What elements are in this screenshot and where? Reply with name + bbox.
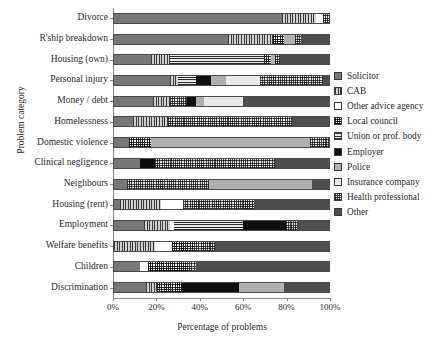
bar-segment-cab xyxy=(144,221,170,230)
legend-swatch-police xyxy=(334,163,342,171)
bar-segment-other xyxy=(292,117,329,126)
bar-segment-cab xyxy=(133,117,167,126)
bar-segment-solicitor xyxy=(114,117,133,126)
category-label: Housing (own) xyxy=(51,54,108,64)
bar-segment-localcouncil xyxy=(157,283,181,292)
bar-segment-health xyxy=(170,97,187,106)
bar-segment-health xyxy=(183,200,245,209)
bar-segment-solicitor xyxy=(114,14,282,23)
stacked-bar xyxy=(113,282,330,293)
legend-item: Health professional xyxy=(334,190,444,205)
legend-label: Solicitor xyxy=(347,71,379,81)
category-label: R'ship breakdown xyxy=(40,33,108,43)
x-axis-tick xyxy=(287,298,288,301)
bar-segment-health xyxy=(310,138,329,147)
bar-segment-police xyxy=(209,180,312,189)
legend-swatch-other xyxy=(334,208,342,216)
legend-label: Local council xyxy=(347,116,398,126)
legend: SolicitorCABOther advice agencyLocal cou… xyxy=(334,68,444,220)
legend-item: Other advice agency xyxy=(334,98,444,113)
category-label: Housing (rent) xyxy=(52,199,108,209)
bar-segment-localcouncil xyxy=(245,200,254,209)
bar-segment-solicitor xyxy=(114,97,153,106)
bar-segment-cab xyxy=(282,14,316,23)
bar-segment-cab xyxy=(146,283,157,292)
bar-segment-cab xyxy=(120,200,161,209)
legend-swatch-localcouncil xyxy=(334,117,342,125)
bar-segment-other xyxy=(215,242,329,251)
x-axis-tick xyxy=(156,298,157,301)
legend-label: Insurance company xyxy=(347,177,420,187)
stacked-bar xyxy=(113,54,330,65)
bar-segment-cab xyxy=(153,97,170,106)
bar-row: Money / debt xyxy=(113,91,330,112)
legend-item: Insurance company xyxy=(334,174,444,189)
bar-segment-health xyxy=(168,117,293,126)
category-label: Welfare benefits xyxy=(46,240,108,250)
bar-row: Housing (own) xyxy=(113,49,330,70)
stacked-bar xyxy=(113,179,330,190)
x-axis-tick xyxy=(243,298,244,301)
bar-segment-employer xyxy=(140,159,155,168)
stacked-bar xyxy=(113,220,330,231)
bar-row: Children xyxy=(113,257,330,278)
bar-segment-other xyxy=(275,159,329,168)
bar-row: R'ship breakdown xyxy=(113,29,330,50)
plot-area: DivorceR'ship breakdownHousing (own)Pers… xyxy=(113,8,330,298)
bar-segment-police xyxy=(239,283,284,292)
x-axis-ticks: 0%20%40%60%80%100% xyxy=(113,298,331,316)
bar-row: Domestic violence xyxy=(113,132,330,153)
bar-segment-union xyxy=(170,55,265,64)
category-label: Money / debt xyxy=(57,95,108,105)
bar-segment-other xyxy=(243,97,329,106)
stacked-bar xyxy=(113,75,330,86)
bar-segment-solicitor xyxy=(114,180,127,189)
stacked-bar-chart: Problem category DivorceR'ship breakdown… xyxy=(0,0,444,346)
legend-label: Other advice agency xyxy=(347,101,423,111)
bar-segment-solicitor xyxy=(114,76,170,85)
stacked-bar xyxy=(113,158,330,169)
bar-segment-employer xyxy=(181,283,239,292)
bar-segment-health xyxy=(323,14,329,23)
bar-segment-health xyxy=(187,262,196,271)
legend-label: Health professional xyxy=(347,192,420,202)
bar-segment-solicitor xyxy=(114,159,140,168)
bar-row: Welfare benefits xyxy=(113,236,330,257)
bar-row: Neighbours xyxy=(113,174,330,195)
bar-segment-union xyxy=(174,221,243,230)
bar-segment-solicitor xyxy=(114,55,151,64)
legend-swatch-health xyxy=(334,193,342,201)
y-axis-title: Problem category xyxy=(16,55,26,185)
stacked-bar xyxy=(113,34,330,45)
legend-item: Employer xyxy=(334,144,444,159)
category-label: Domestic violence xyxy=(37,137,108,147)
category-label: Discrimination xyxy=(51,282,108,292)
bar-segment-police xyxy=(211,76,226,85)
bar-row: Personal injury xyxy=(113,70,330,91)
legend-item: Local council xyxy=(334,114,444,129)
category-label: Children xyxy=(75,261,108,271)
bar-segment-other xyxy=(196,262,329,271)
bar-segment-health xyxy=(286,221,297,230)
bar-segment-insurance xyxy=(226,76,260,85)
x-axis-tick-label: 20% xyxy=(148,302,165,312)
bar-segment-employer xyxy=(196,76,211,85)
bar-segment-localcouncil xyxy=(129,138,151,147)
x-axis-tick xyxy=(330,298,331,301)
x-axis-title: Percentage of problems xyxy=(113,322,331,332)
bar-row: Housing (rent) xyxy=(113,194,330,215)
bar-segment-health xyxy=(260,76,322,85)
bar-segment-solicitor xyxy=(114,35,228,44)
bar-segment-health xyxy=(194,242,216,251)
bar-segment-otheradvice xyxy=(155,242,172,251)
bar-segment-police xyxy=(196,97,205,106)
bar-segment-solicitor xyxy=(114,283,146,292)
category-label: Employment xyxy=(59,219,108,229)
stacked-bar xyxy=(113,199,330,210)
bar-segment-union xyxy=(178,76,195,85)
bar-segment-police xyxy=(284,35,295,44)
bar-segment-other xyxy=(301,35,329,44)
bar-row: Discrimination xyxy=(113,277,330,298)
legend-label: Union or prof. body xyxy=(347,131,421,141)
bar-row: Clinical negligence xyxy=(113,153,330,174)
